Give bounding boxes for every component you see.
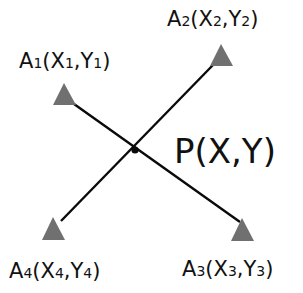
label-a3: A3(X3,Y3) <box>182 257 273 281</box>
label-a4: A4(X4,Y4) <box>9 259 100 283</box>
intersection-point-p <box>131 146 138 153</box>
triangle-marker-a2 <box>210 44 233 66</box>
intersection-diagram: A1(X1,Y1) A2(X2,Y2) P(X,Y) A4(X4,Y4) A3(… <box>0 0 303 293</box>
triangle-marker-a3 <box>231 218 254 241</box>
label-a2: A2(X2,Y2) <box>167 7 258 31</box>
label-a1: A1(X1,Y1) <box>19 49 110 73</box>
label-p: P(X,Y) <box>174 131 276 171</box>
triangle-marker-a1 <box>53 83 76 105</box>
